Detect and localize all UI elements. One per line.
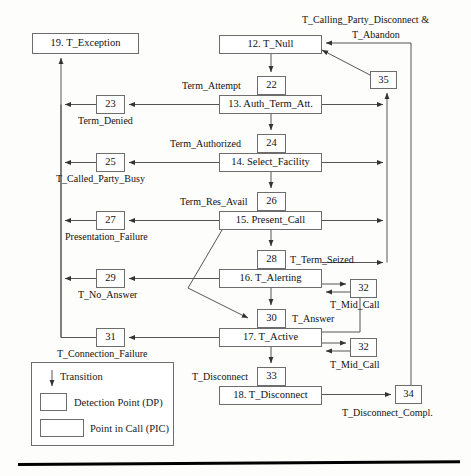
legend-pic-swatch: [40, 419, 84, 437]
legend-transition-label: Transition: [60, 371, 103, 382]
legend-dp-label: Detection Point (DP): [74, 397, 163, 408]
legend-dp-swatch: [40, 393, 67, 411]
legend-arrow-layer: [0, 0, 471, 476]
legend-pic-label: Point in Call (PIC): [90, 423, 169, 434]
diagram-canvas: 19. T_Exception 12. T_Null 13. Auth_Term…: [0, 0, 471, 476]
